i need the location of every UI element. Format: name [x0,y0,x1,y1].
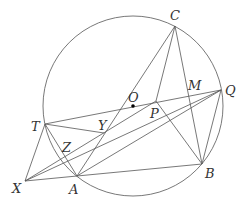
segment-qb [202,90,221,164]
segment-pb [156,101,202,164]
label-p: P [149,106,159,121]
segment-xq [25,90,221,181]
label-t: T [31,119,41,134]
segment-ty [45,124,104,133]
label-c: C [170,8,180,23]
label-m: M [187,78,202,93]
segment-aq [77,90,221,176]
label-z: Z [61,140,72,155]
segment-ca [77,26,175,176]
label-b: B [204,166,215,181]
label-q: Q [225,83,236,98]
label-o: O [128,90,139,105]
segment-cp [156,26,175,101]
label-y: Y [98,118,108,133]
label-a: A [68,182,78,197]
segment-ta [45,124,77,176]
segments [25,26,221,181]
segment-xa [25,176,77,181]
segment-cb [175,26,202,164]
geometry-diagram: CQMOPTYZXAB [0,0,247,210]
segment-ab [77,164,202,176]
label-x: X [11,181,22,196]
